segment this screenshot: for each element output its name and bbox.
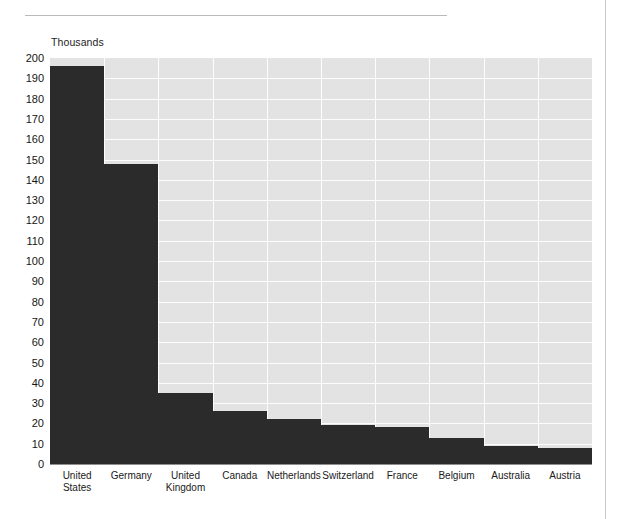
x-axis-line (50, 464, 592, 465)
y-axis-tick-label: 180 (4, 93, 44, 105)
x-axis-tick-label: Netherlands (267, 470, 321, 482)
bar (375, 427, 429, 464)
plot-area (50, 58, 592, 464)
y-axis-tick-label: 40 (4, 377, 44, 389)
x-axis-tick-label: Belgium (429, 470, 483, 482)
bar-chart: Thousands 010203040506070809010011012013… (0, 0, 622, 519)
y-axis-tick-label: 120 (4, 214, 44, 226)
category-separator (213, 58, 214, 464)
y-axis-tick-label: 0 (4, 458, 44, 470)
y-axis-tick-label: 30 (4, 397, 44, 409)
category-separator (484, 58, 485, 464)
x-axis-tick-label: France (375, 470, 429, 482)
category-separator (321, 58, 322, 464)
y-axis-tick-label: 170 (4, 113, 44, 125)
category-separator (267, 58, 268, 464)
bar (321, 425, 375, 464)
category-separator (375, 58, 376, 464)
y-axis-tick-label: 20 (4, 417, 44, 429)
document-page: Thousands 010203040506070809010011012013… (0, 0, 622, 519)
x-axis-tick-label: Australia (484, 470, 538, 482)
bar (50, 66, 104, 464)
y-axis-tick-label: 190 (4, 72, 44, 84)
bar (484, 446, 538, 464)
y-axis-tick-label: 130 (4, 194, 44, 206)
bar (213, 411, 267, 464)
y-axis-tick-label: 50 (4, 357, 44, 369)
y-axis-tick-label: 200 (4, 52, 44, 64)
x-axis-tick-label: United States (50, 470, 104, 493)
y-axis-tick-label: 160 (4, 133, 44, 145)
bar (104, 164, 158, 464)
x-axis-tick-label: Switzerland (321, 470, 375, 482)
bar (267, 419, 321, 464)
y-axis-tick-label: 90 (4, 275, 44, 287)
x-axis-tick-label: Austria (538, 470, 592, 482)
y-axis-tick-label: 60 (4, 336, 44, 348)
bar (158, 393, 212, 464)
category-separator (538, 58, 539, 464)
y-axis-tick-label: 140 (4, 174, 44, 186)
y-axis-tick-label: 110 (4, 235, 44, 247)
y-axis-tick-label: 100 (4, 255, 44, 267)
bar (429, 438, 483, 464)
category-separator (429, 58, 430, 464)
y-axis-tick-label: 80 (4, 296, 44, 308)
y-axis-tick-label: 10 (4, 438, 44, 450)
bar (538, 448, 592, 464)
y-axis-tick-label: 70 (4, 316, 44, 328)
y-axis-unit-label: Thousands (51, 36, 104, 48)
y-axis-tick-label: 150 (4, 154, 44, 166)
x-axis-tick-label: Germany (104, 470, 158, 482)
x-axis-tick-label: United Kingdom (158, 470, 212, 493)
x-axis-tick-label: Canada (213, 470, 267, 482)
